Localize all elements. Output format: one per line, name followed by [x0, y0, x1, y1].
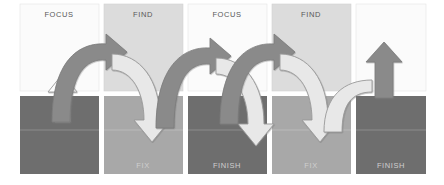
panel-p5-bottom	[356, 96, 426, 174]
process-cycle-diagram	[0, 0, 444, 185]
panel-row-top	[20, 4, 426, 91]
diagram-canvas: FOCUS FIND FOCUS FIND FIX FINISH FIX FIN…	[0, 0, 444, 185]
